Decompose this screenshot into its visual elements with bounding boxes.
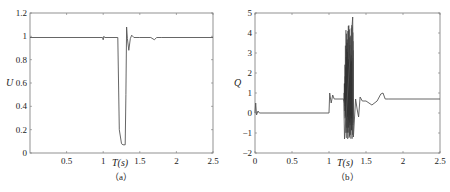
y-tick-label: 0.4 <box>16 101 28 111</box>
plot-frame-a <box>30 13 213 153</box>
x-tick-label: 0.5 <box>286 156 298 166</box>
caption-a: （a） <box>110 172 132 182</box>
y-tick-label: 2 <box>248 68 253 78</box>
x-axis-label-b: T(s) <box>337 157 354 169</box>
y-tick-label: 1 <box>23 31 28 41</box>
y-axis-label-b: Q <box>234 77 242 88</box>
chart-panel-b: 00.511.522.5−2−1012345 Q T(s) （b） <box>234 8 446 182</box>
caption-b: （b） <box>336 172 359 182</box>
figure: 0.511.522.500.20.40.60.811.2 U T(s) （a） … <box>0 0 450 192</box>
y-tick-label: −2 <box>242 148 252 158</box>
y-tick-label: 0 <box>23 148 28 158</box>
series-line-u <box>30 27 213 145</box>
x-tick-label: 2 <box>401 156 406 166</box>
chart-panel-a: 0.511.522.500.20.40.60.811.2 U T(s) （a） <box>6 8 219 182</box>
y-tick-label: 0 <box>248 108 253 118</box>
x-tick-label: 2.5 <box>434 156 446 166</box>
x-tick-label: 1 <box>327 156 332 166</box>
y-tick-label: 3 <box>248 48 253 58</box>
y-tick-label: 1 <box>248 88 253 98</box>
y-axis-label-a: U <box>6 77 14 88</box>
y-tick-label: 1.2 <box>16 8 27 18</box>
x-tick-label: 0.5 <box>61 156 73 166</box>
y-tick-label: 0.2 <box>16 125 27 135</box>
y-tick-label: −1 <box>242 128 252 138</box>
y-tick-label: 4 <box>248 28 253 38</box>
y-tick-label: 0.8 <box>16 55 28 65</box>
x-tick-label: 1.5 <box>360 156 372 166</box>
x-axis-label-a: T(s) <box>112 157 129 169</box>
x-tick-label: 2 <box>174 156 179 166</box>
x-tick-label: 2.5 <box>207 156 219 166</box>
x-tick-label: 1 <box>101 156 106 166</box>
y-tick-label: 0.6 <box>16 78 28 88</box>
x-tick-label: 1.5 <box>134 156 146 166</box>
y-tick-label: 5 <box>248 8 253 18</box>
x-tick-label: 0 <box>253 156 258 166</box>
ticks-a: 0.511.522.500.20.40.60.811.2 <box>16 8 219 166</box>
